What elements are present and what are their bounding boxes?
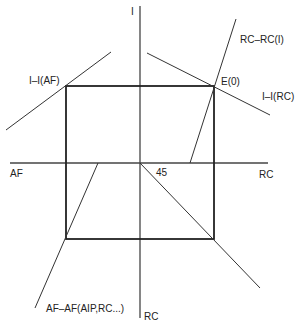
- axis-label-rc-bottom: RC: [144, 312, 158, 322]
- i-af-curve: [6, 52, 111, 130]
- 45-degree-line: [140, 163, 260, 288]
- curve-label-i-af: I–I(AF): [29, 76, 60, 86]
- diagram-lines: [0, 0, 298, 326]
- axis-label-rc-right: RC: [259, 170, 273, 180]
- curve-label-i-rc: I–I(RC): [262, 92, 294, 102]
- axis-label-i: I: [131, 7, 134, 17]
- rc-rc-i-curve: [190, 19, 236, 163]
- axis-label-af: AF: [10, 169, 23, 179]
- equilibrium-label: E(0): [221, 77, 240, 87]
- curve-label-rc-rc-i: RC–RC(I): [240, 35, 284, 45]
- four-quadrant-diagram: I RC AF RC I–I(AF) RC–RC(I) I–I(RC) AF–A…: [0, 0, 298, 326]
- angle-label: 45: [156, 168, 167, 178]
- curve-label-af-af: AF–AF(AIP,RC...): [46, 304, 124, 314]
